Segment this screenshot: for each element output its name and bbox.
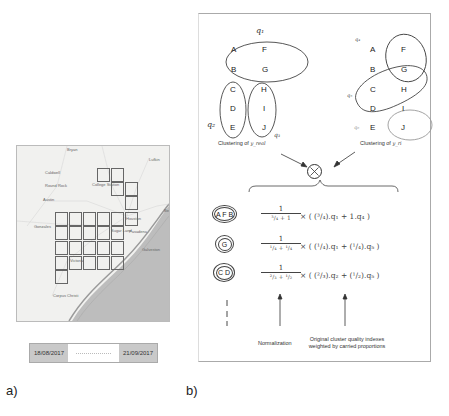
cluster-q5-label: q₅ <box>347 92 352 98</box>
element-i-right: I <box>402 104 404 113</box>
element-c-right: C <box>370 85 376 94</box>
element-i-left: I <box>263 104 265 113</box>
element-b-left: B <box>231 65 236 74</box>
weighted-expression-2: × ( (¹/₄).q₁ + (¹/₄).q₅ ) <box>300 242 380 251</box>
element-c-left: C <box>230 85 236 94</box>
cluster-q6-label: q₆ <box>354 124 359 130</box>
element-d-right: D <box>370 104 376 113</box>
element-g-right: G <box>401 65 407 74</box>
left-clustering-caption: Clustering of y_real <box>218 140 266 146</box>
element-a-right: A <box>370 45 375 54</box>
cluster-q4-label: q₄ <box>355 36 360 42</box>
group-g-badge: G <box>215 235 234 253</box>
element-f-left: F <box>262 45 267 54</box>
original-quality-annotation: Original cluster quality indexes weighte… <box>302 336 392 350</box>
element-a-left: A <box>231 45 236 54</box>
cluster-q3-label: q₃ <box>274 131 280 138</box>
normalization-annotation: Normalization <box>258 340 292 347</box>
weighted-expression-1: × ( (³/₄).q₁ + 1.q₄ ) <box>300 212 370 221</box>
cluster-q2-label: q₂ <box>207 120 215 129</box>
element-f-right: F <box>401 45 406 54</box>
element-g-left: G <box>262 65 268 74</box>
element-e-left: E <box>230 123 235 132</box>
weighted-expression-3: × ( (²/₃).q₂ + (¹/₂).q₅ ) <box>300 271 380 280</box>
cluster-q1-label: q₁ <box>256 26 264 35</box>
element-e-right: E <box>370 123 375 132</box>
normalization-fraction-3: 1²/₃ + ¹/₂ <box>261 264 301 280</box>
element-d-left: D <box>230 104 236 113</box>
group-afb-badge: A F B <box>212 205 237 223</box>
element-j-right: J <box>401 123 405 132</box>
group-cd-badge: C D <box>213 263 235 282</box>
normalization-fraction-2: 1¹/₄ + ¹/₄ <box>261 235 301 251</box>
normalization-fraction-1: 1³/₄ + 1 <box>261 205 301 221</box>
right-clustering-caption: Clustering of y_ri <box>360 140 402 146</box>
combine-operator-icon <box>307 164 322 179</box>
element-h-left: H <box>261 85 267 94</box>
element-b-right: B <box>370 65 375 74</box>
element-h-right: H <box>401 85 407 94</box>
element-j-left: J <box>262 123 266 132</box>
